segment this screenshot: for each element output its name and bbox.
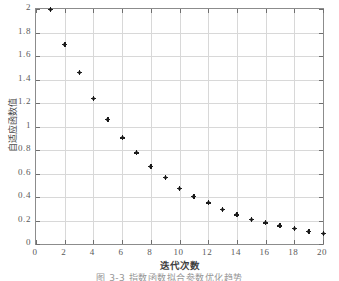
y-axis-tick-label: 0.6	[0, 167, 31, 177]
x-axis-tick	[180, 240, 181, 244]
x-axis-tick	[323, 240, 324, 244]
figure-caption: 图 3-3 指数函数拟合参数优化趋势	[0, 271, 339, 281]
data-point	[163, 175, 168, 180]
y-axis-tick	[36, 103, 40, 104]
x-axis-tick	[93, 240, 94, 244]
y-axis-tick-label: 2	[0, 2, 31, 12]
grid-line-vertical	[151, 9, 152, 244]
x-axis-tick-top	[266, 9, 267, 13]
y-axis-tick	[36, 174, 40, 175]
y-axis-tick-right	[319, 127, 323, 128]
data-point	[306, 229, 311, 234]
grid-line-vertical	[294, 9, 295, 244]
grid-line-vertical	[266, 9, 267, 244]
data-point	[220, 207, 225, 212]
y-axis-tick-right	[319, 56, 323, 57]
x-axis-tick-top	[65, 9, 66, 13]
x-axis-tick-top	[237, 9, 238, 13]
plot-area	[35, 8, 324, 245]
x-axis-tick	[266, 240, 267, 244]
y-axis-tick-right	[319, 80, 323, 81]
data-point	[277, 223, 282, 228]
y-axis-tick-right	[319, 244, 323, 245]
data-point	[48, 7, 53, 12]
y-axis-tick	[36, 80, 40, 81]
x-axis-tick	[237, 240, 238, 244]
x-axis-tick-top	[93, 9, 94, 13]
y-axis-tick	[36, 150, 40, 151]
data-point	[77, 70, 82, 75]
grid-line-vertical	[93, 9, 94, 244]
grid-line-vertical	[122, 9, 123, 244]
y-axis-tick-right	[319, 150, 323, 151]
y-axis-tick-right	[319, 197, 323, 198]
y-axis-tick-right	[319, 103, 323, 104]
x-axis-tick-top	[323, 9, 324, 13]
y-axis-tick-label: 0.4	[0, 190, 31, 200]
y-axis-tick	[36, 221, 40, 222]
y-axis-tick	[36, 244, 40, 245]
y-axis-tick-label: 1.8	[0, 26, 31, 36]
y-axis-tick	[36, 56, 40, 57]
grid-line-vertical	[208, 9, 209, 244]
x-axis-label: 迭代次数	[35, 258, 325, 272]
y-axis-tick	[36, 33, 40, 34]
x-axis-tick	[36, 240, 37, 244]
x-axis-tick	[65, 240, 66, 244]
x-axis-tick-top	[36, 9, 37, 13]
y-axis-tick-label: 0.8	[0, 143, 31, 153]
x-axis-tick-top	[294, 9, 295, 13]
y-axis-tick-right	[319, 174, 323, 175]
x-axis-tick	[294, 240, 295, 244]
y-axis-tick-right	[319, 33, 323, 34]
data-point	[134, 150, 139, 155]
y-axis-tick	[36, 197, 40, 198]
y-axis-tick-label: 1.6	[0, 49, 31, 59]
figure-container: 自适应函数值 迭代次数 图 3-3 指数函数拟合参数优化趋势 00.20.40.…	[0, 0, 339, 281]
x-axis-tick	[122, 240, 123, 244]
y-axis-tick-label: 0.2	[0, 214, 31, 224]
data-point	[321, 231, 326, 236]
x-axis-tick-label: 20	[302, 247, 339, 257]
y-axis-tick-label: 1.4	[0, 73, 31, 83]
x-axis-tick-top	[180, 9, 181, 13]
x-axis-tick-top	[208, 9, 209, 13]
grid-line-vertical	[180, 9, 181, 244]
x-axis-tick-top	[122, 9, 123, 13]
x-axis-tick	[208, 240, 209, 244]
x-axis-tick-top	[151, 9, 152, 13]
x-axis-tick	[151, 240, 152, 244]
y-axis-tick-label: 0	[0, 237, 31, 247]
y-axis-tick-right	[319, 221, 323, 222]
grid-line-vertical	[65, 9, 66, 244]
data-point	[105, 117, 110, 122]
y-axis-tick	[36, 127, 40, 128]
y-axis-tick-label: 1.2	[0, 96, 31, 106]
y-axis-tick-label: 1	[0, 120, 31, 130]
grid-line-vertical	[237, 9, 238, 244]
